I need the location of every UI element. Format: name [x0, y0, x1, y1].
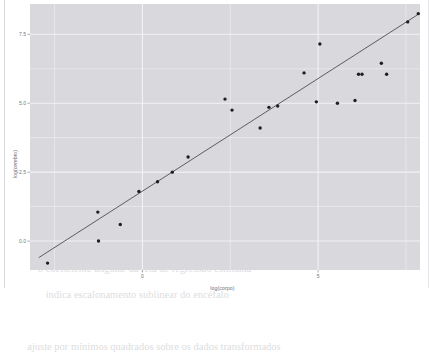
data-point [417, 12, 420, 15]
data-point [96, 210, 99, 213]
plot-panel [30, 4, 420, 270]
scatter-plot-figure: log(corpo) 0.02.55.07.505 [6, 2, 427, 286]
y-tick-label: 0.0 [6, 238, 26, 244]
y-axis-title: log(cerebro) [12, 150, 18, 178]
data-point [336, 102, 339, 105]
data-point [223, 97, 226, 100]
data-point [186, 155, 189, 158]
data-point [357, 73, 360, 76]
data-point [302, 71, 305, 74]
data-point [97, 239, 100, 242]
y-tick-label: 7.5 [6, 31, 26, 37]
data-point [276, 104, 279, 107]
panel-background [30, 4, 420, 270]
data-point [353, 99, 356, 102]
data-point [137, 190, 140, 193]
x-tick-label: 0 [132, 273, 152, 279]
data-point [318, 42, 321, 45]
data-point [156, 180, 159, 183]
data-point [46, 261, 49, 264]
data-point [380, 62, 383, 65]
data-point [406, 20, 409, 23]
y-axis-title-wrapper: log(cerebro) [9, 100, 99, 112]
data-point [315, 100, 318, 103]
x-tick-label: 5 [308, 273, 328, 279]
data-point [171, 170, 174, 173]
data-point [230, 108, 233, 111]
plot-canvas [6, 2, 427, 286]
data-point [258, 126, 261, 129]
x-axis-title: log(corpo) [6, 285, 433, 291]
data-point [385, 73, 388, 76]
data-point [360, 73, 363, 76]
data-point [119, 223, 122, 226]
data-point [267, 106, 270, 109]
